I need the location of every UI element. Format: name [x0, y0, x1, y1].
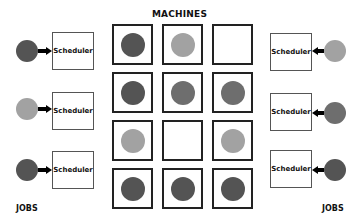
machine-slot: [112, 24, 153, 65]
machine-slot: [162, 72, 203, 113]
machine-slot: [212, 24, 253, 65]
job-circle: [221, 129, 245, 153]
job-circle-left-2: [16, 98, 38, 120]
arrow-right-icon: [38, 105, 52, 113]
job-circle-left-3: [16, 159, 38, 181]
machines-title: MACHINES: [0, 9, 359, 19]
machine-slot: [212, 168, 253, 209]
machine-slot: [112, 120, 153, 161]
arrow-left-icon: [312, 47, 324, 55]
job-circle: [121, 177, 145, 201]
arrow-left-icon: [312, 166, 324, 174]
job-circle: [121, 33, 145, 57]
arrow-right-icon: [38, 166, 52, 174]
machine-slot: [112, 168, 153, 209]
scheduler-box-left-1: Scheduler: [52, 32, 94, 70]
job-circle-right-2: [324, 102, 346, 124]
arrow-left-icon: [312, 109, 324, 117]
jobs-label-left: JOBS: [16, 204, 38, 213]
jobs-label-right: JOBS: [322, 204, 344, 213]
scheduler-box-left-3: Scheduler: [52, 151, 94, 189]
machine-slot: [162, 120, 203, 161]
scheduler-box-right-2: Scheduler: [270, 93, 312, 131]
scheduler-box-right-1: Scheduler: [270, 33, 312, 71]
machine-slot: [162, 168, 203, 209]
job-circle-right-1: [324, 40, 346, 62]
job-circle: [171, 33, 195, 57]
job-circle: [121, 81, 145, 105]
arrow-right-icon: [38, 47, 52, 55]
machine-slot: [212, 72, 253, 113]
job-circle: [121, 129, 145, 153]
machine-slot: [212, 120, 253, 161]
job-circle: [171, 81, 195, 105]
job-circle-right-3: [324, 159, 346, 181]
machine-slot: [112, 72, 153, 113]
job-circle: [221, 177, 245, 201]
machine-slot: [162, 24, 203, 65]
job-circle: [221, 81, 245, 105]
job-circle: [171, 177, 195, 201]
scheduler-box-left-2: Scheduler: [52, 92, 94, 130]
scheduler-box-right-3: Scheduler: [270, 150, 312, 188]
job-circle-left-1: [16, 40, 38, 62]
